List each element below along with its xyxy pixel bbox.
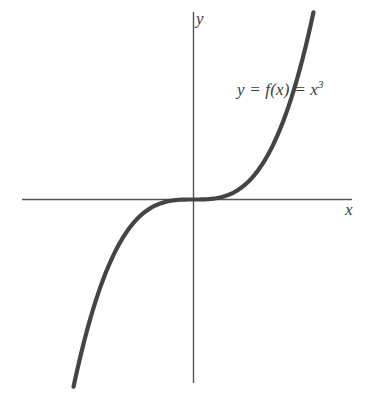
axis-label-x: x	[345, 201, 353, 218]
equation-exponent: 3	[318, 78, 324, 90]
cubic-function-figure: y x y = f(x) = x3	[0, 0, 373, 407]
plot-canvas	[0, 0, 373, 407]
curve-equation-label: y = f(x) = x3	[237, 79, 324, 98]
equation-base: y = f(x) = x	[237, 80, 318, 99]
axis-label-y: y	[196, 10, 204, 27]
